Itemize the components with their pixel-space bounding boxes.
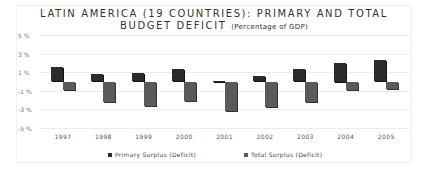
chart-title: LATIN AMERICA (19 COUNTRIES): PRIMARY AN…	[16, 8, 412, 33]
bar-primary-1999	[132, 73, 144, 81]
bar-primary-1998	[91, 74, 103, 81]
bar-total-2003	[305, 82, 317, 102]
bar-primary-2002	[253, 76, 265, 82]
y-tick-label: 1 %	[18, 69, 38, 76]
gridline	[40, 128, 410, 129]
bar-primary-2004	[334, 63, 346, 82]
bar-primary-2005	[374, 60, 386, 81]
x-tick-label: 2004	[331, 133, 361, 140]
bar-total-2002	[265, 82, 277, 108]
chart-subtitle: (Percentage of GDP)	[231, 23, 308, 31]
y-tick-label: -1 %	[18, 87, 38, 94]
x-tick-label: 1997	[48, 133, 78, 140]
y-tick-label: -3 %	[18, 106, 38, 113]
x-tick-label: 2002	[250, 133, 280, 140]
y-tick-label: 3 %	[18, 50, 38, 57]
bar-total-2000	[184, 82, 196, 101]
bar-total-1998	[103, 82, 115, 102]
legend-item-total: Total Surplus (Deficit)	[244, 151, 322, 158]
legend-item-primary: Primary Surplus (Deficit)	[108, 151, 196, 158]
legend-swatch-primary	[108, 153, 112, 157]
chart-title-line2: BUDGET DEFICIT (Percentage of GDP)	[16, 20, 412, 33]
y-tick-label: 5 %	[18, 32, 38, 39]
bar-total-2005	[386, 82, 398, 89]
x-tick-label: 2001	[210, 133, 240, 140]
x-tick-label: 2003	[290, 133, 320, 140]
bar-total-1997	[63, 82, 75, 90]
legend-label-primary: Primary Surplus (Deficit)	[115, 151, 196, 158]
bar-primary-2001	[213, 81, 225, 82]
chart-title-line1: LATIN AMERICA (19 COUNTRIES): PRIMARY AN…	[16, 8, 412, 20]
bar-primary-2003	[293, 69, 305, 81]
y-tick-label: -5 %	[18, 124, 38, 131]
x-tick-label: 1999	[129, 133, 159, 140]
bar-total-2001	[225, 82, 237, 112]
chart-title-line2-main: BUDGET DEFICIT	[120, 20, 226, 31]
gridline	[40, 72, 410, 73]
x-tick-label: 2000	[169, 133, 199, 140]
gridline	[40, 54, 410, 55]
legend-swatch-total	[244, 153, 248, 157]
legend-label-total: Total Surplus (Deficit)	[251, 151, 322, 158]
x-tick-label: 1998	[88, 133, 118, 140]
bar-total-1999	[144, 82, 156, 106]
x-tick-label: 2005	[371, 133, 401, 140]
bar-primary-1997	[51, 67, 63, 82]
bar-total-2004	[346, 82, 358, 90]
gridline	[40, 35, 410, 36]
bar-primary-2000	[172, 69, 184, 81]
